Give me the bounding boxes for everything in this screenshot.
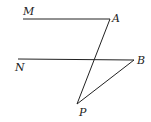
label-p: P — [78, 106, 87, 119]
label-b: B — [136, 54, 145, 67]
label-m: M — [22, 5, 35, 18]
label-n: N — [14, 61, 25, 74]
line-nb — [18, 59, 134, 60]
geometry-diagram: M A N B P — [0, 0, 151, 122]
label-a: A — [111, 12, 120, 25]
